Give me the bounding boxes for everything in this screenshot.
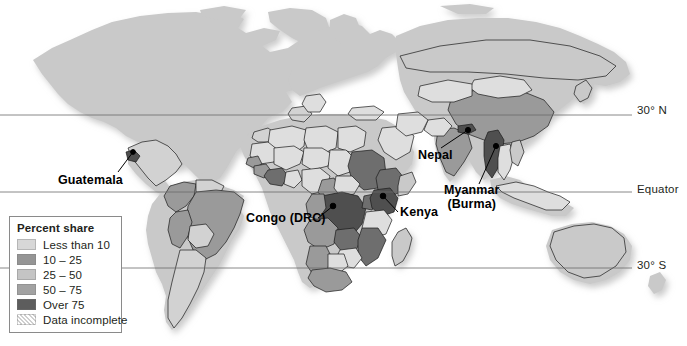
country-brazil [186,190,244,260]
legend-item: Data incomplete [17,312,115,327]
latitude-label-30s: 30° S [637,259,666,271]
legend-item: 25 – 50 [17,267,115,282]
latitude-label-equator: Equator [637,183,679,195]
callout-dot-guatemala [131,150,136,155]
country-label-kenya: Kenya [400,205,438,219]
legend-item-label: 10 – 25 [43,254,82,266]
legend-item: Over 75 [17,297,115,312]
legend-swatch [17,299,36,310]
legend-rows: Less than 1010 – 2525 – 5050 – 75Over 75… [17,237,115,327]
country-mozambique [358,228,386,266]
legend-swatch [17,254,36,265]
legend-item-label: 25 – 50 [43,269,82,281]
legend-item: Less than 10 [17,237,115,252]
world-map-figure: 30° N Equator 30° S Guatemala Congo (DRC… [0,0,687,346]
legend-item-label: Data incomplete [43,314,128,326]
legend-title: Percent share [17,222,115,234]
legend-swatch [17,269,36,280]
country-label-myanmar-line2: (Burma) [444,197,500,211]
country-label-congo: Congo (DRC) [246,211,326,225]
callout-dot-kenya [380,193,386,199]
country-label-myanmar: Myanmar (Burma) [444,183,500,211]
legend-item-label: Over 75 [43,299,85,311]
country-label-myanmar-line1: Myanmar [444,183,500,197]
country-madagascar-shaded [392,228,412,266]
legend-swatch [17,284,36,295]
legend-item-label: 50 – 75 [43,284,82,296]
callout-dot-nepal [465,127,470,132]
country-france [302,94,326,112]
country-label-guatemala: Guatemala [58,173,123,187]
legend-swatch [17,239,36,250]
callout-dot-myanmar [493,143,498,148]
legend-item-label: Less than 10 [43,239,110,251]
country-south-africa [308,268,352,292]
country-label-nepal: Nepal [418,148,453,162]
map-legend: Percent share Less than 1010 – 2525 – 50… [9,216,122,333]
legend-item: 10 – 25 [17,252,115,267]
country-turkey [348,106,384,120]
callout-dot-congo [330,203,336,209]
landmass-new-zealand [648,272,666,294]
legend-swatch [17,314,36,325]
latitude-label-30n: 30° N [637,104,667,116]
legend-item: 50 – 75 [17,282,115,297]
